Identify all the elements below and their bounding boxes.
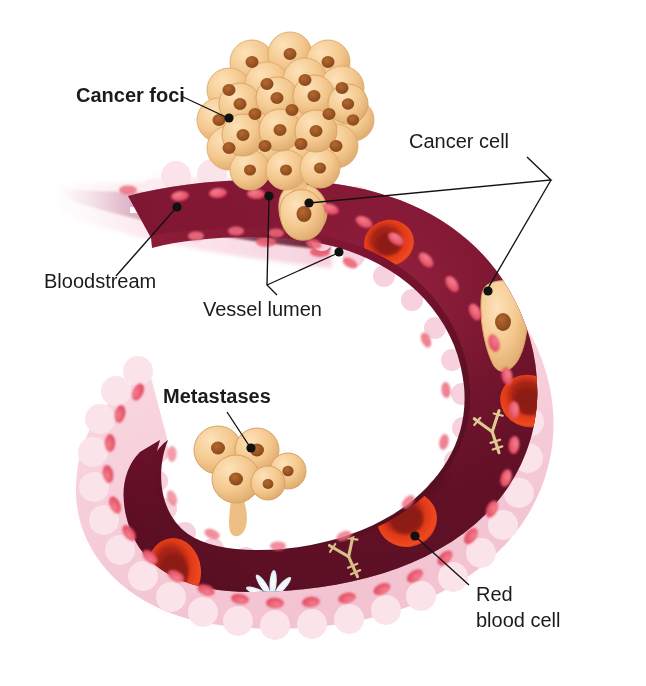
leader-dot-vessel-lumen-left xyxy=(264,191,273,200)
label-bloodstream: Bloodstream xyxy=(44,270,156,292)
extravasating-cancer-cell xyxy=(280,190,325,241)
label-vessel-lumen: Vessel lumen xyxy=(203,298,322,320)
leader-dot-metastases xyxy=(246,443,255,452)
leader-dot-vessel-lumen-right xyxy=(334,247,343,256)
metastases-cluster xyxy=(194,426,306,536)
leader-cancer-cell-lower xyxy=(487,180,551,290)
label-metastases: Metastases xyxy=(163,385,271,407)
leader-dot-red-blood-cell xyxy=(410,531,419,540)
label-red-blood-cell-line1: Red xyxy=(476,583,513,605)
leader-dot-cancer-cell-upper xyxy=(304,198,313,207)
label-cancer-cell: Cancer cell xyxy=(409,130,509,152)
metastasis-diagram: Cancer foci Cancer cell Bloodstream Vess… xyxy=(0,0,646,686)
leader-dot-cancer-foci xyxy=(224,113,233,122)
leader-dot-bloodstream xyxy=(172,202,181,211)
label-red-blood-cell-line2: blood cell xyxy=(476,609,561,631)
illustration-canvas: Cancer foci Cancer cell Bloodstream Vess… xyxy=(0,0,646,686)
leader-dot-cancer-cell-lower xyxy=(483,286,492,295)
label-cancer-foci: Cancer foci xyxy=(76,84,185,106)
